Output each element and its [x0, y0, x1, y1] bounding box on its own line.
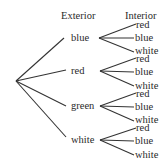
- interior-white-red: red: [136, 122, 149, 133]
- interior-blue-blue: blue: [135, 32, 153, 43]
- interior-green-blue: blue: [135, 101, 153, 112]
- interior-red-blue: blue: [135, 66, 153, 77]
- interior-red-red: red: [136, 53, 149, 64]
- exterior-header: Exterior: [61, 10, 95, 21]
- exterior-white: white: [71, 134, 94, 145]
- tree-diagram: Exterior Interior blue red blue white re…: [0, 0, 162, 162]
- interior-white-white: white: [135, 149, 158, 160]
- exterior-blue: blue: [71, 32, 89, 43]
- interior-blue-red: red: [136, 19, 149, 30]
- exterior-green: green: [71, 100, 94, 111]
- exterior-red: red: [71, 65, 84, 76]
- interior-green-red: red: [136, 88, 149, 99]
- interior-white-blue: blue: [135, 135, 153, 146]
